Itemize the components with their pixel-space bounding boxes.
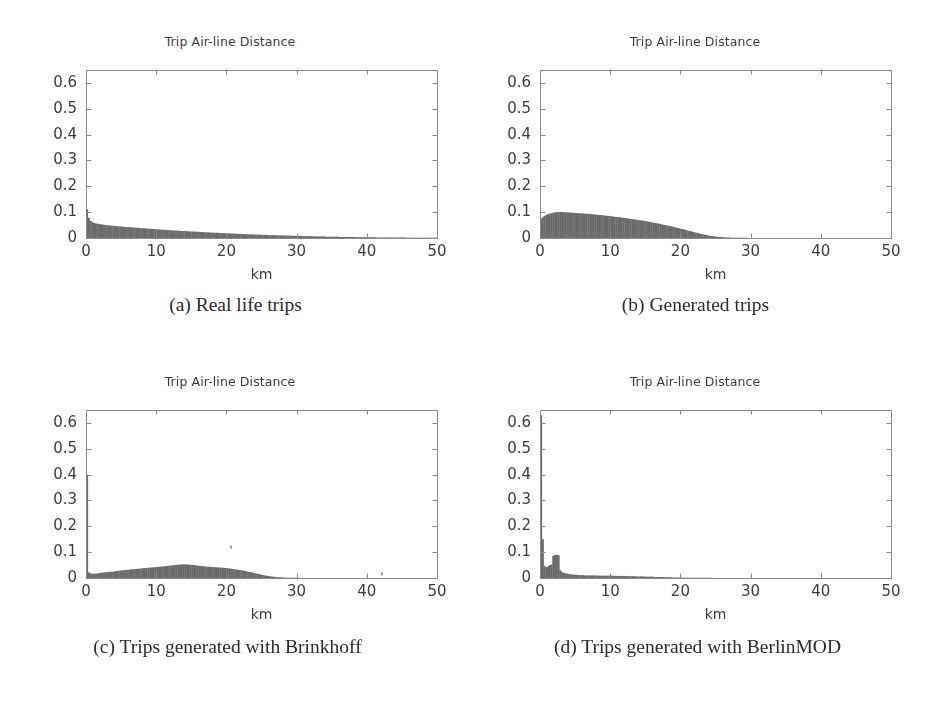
panel-caption-d: (d) Trips generated with BerlinMOD: [462, 636, 933, 658]
figure-four-panel-histograms: Trip Air-line Distance (a) Real life tri…: [0, 0, 943, 701]
histogram-canvas-a: [0, 0, 471, 290]
histogram-canvas-d: [460, 340, 943, 630]
panel-c: Trip Air-line Distance (c) Trips generat…: [0, 340, 471, 690]
panel-d: Trip Air-line Distance (d) Trips generat…: [460, 340, 931, 690]
panel-a: Trip Air-line Distance (a) Real life tri…: [0, 0, 471, 350]
histogram-canvas-b: [460, 0, 943, 290]
panel-caption-a: (a) Real life trips: [0, 294, 471, 316]
panel-caption-c: (c) Trips generated with Brinkhoff: [0, 636, 463, 658]
panel-caption-b: (b) Generated trips: [460, 294, 931, 316]
histogram-canvas-c: [0, 340, 471, 630]
panel-b: Trip Air-line Distance (b) Generated tri…: [460, 0, 931, 350]
